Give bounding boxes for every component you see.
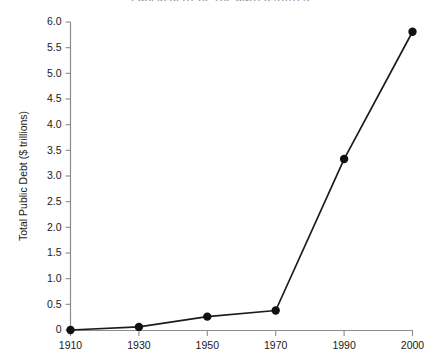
y-tick-label: 4.0 [47,118,62,130]
y-tick-label: 1.0 [47,272,62,284]
y-tick-label: 1.5 [47,246,62,258]
data-point-marker [408,28,416,36]
y-tick-label: 5.5 [47,41,62,53]
data-point-marker [272,306,280,314]
x-tick-label: 1910 [59,339,83,351]
data-point-marker [66,326,74,334]
y-tick-label: 2.0 [47,221,62,233]
chart-figure: PUBLIC DEBT OF THE UNITED STATES 00.51.0… [0,0,441,361]
y-tick-label: 5.0 [47,67,62,79]
y-axis-title: Total Public Debt ($ trillions) [17,111,29,241]
x-tick-label: 1970 [264,339,288,351]
chart-title: PUBLIC DEBT OF THE UNITED STATES [0,0,441,1]
x-tick-label: 1950 [196,339,220,351]
x-tick-label: 1930 [127,339,151,351]
y-tick-label: 3.0 [47,169,62,181]
x-tick-label: 2000 [401,339,425,351]
y-tick-label: 4.5 [47,92,62,104]
y-tick-label: 6.0 [47,15,62,27]
x-tick-label: 1990 [332,339,356,351]
y-tick-label: 0 [56,323,62,335]
data-point-marker [203,312,211,320]
y-tick-label: 3.5 [47,144,62,156]
plot-background [0,0,441,361]
data-point-marker [340,155,348,163]
line-chart-plot: 00.51.01.52.02.53.03.54.04.55.05.56.0 To… [0,0,441,361]
data-point-marker [135,323,143,331]
y-tick-label: 2.5 [47,195,62,207]
y-tick-label: 0.5 [47,298,62,310]
